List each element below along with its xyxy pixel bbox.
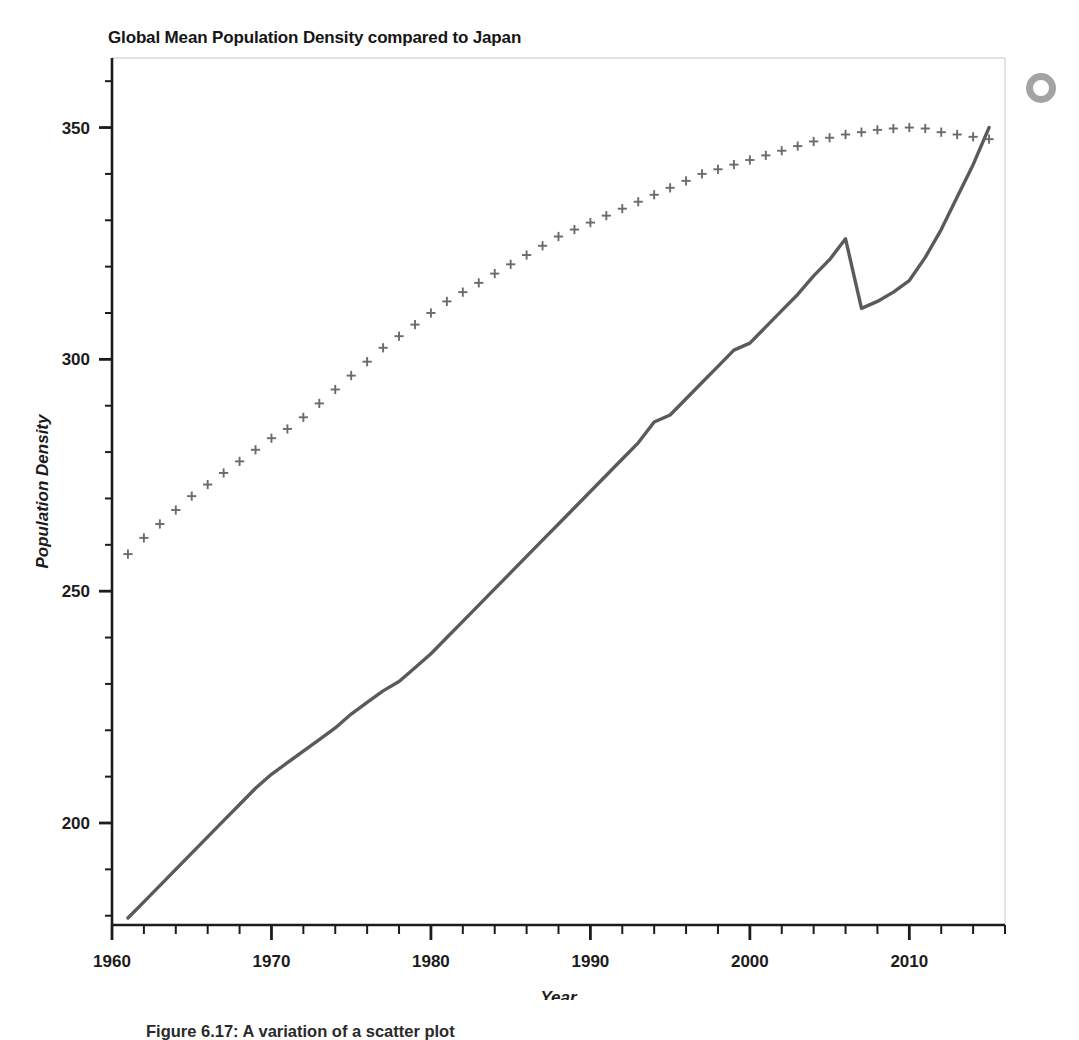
plus-marker — [825, 133, 834, 142]
plus-marker — [905, 123, 914, 132]
plus-marker — [426, 308, 435, 317]
plus-marker — [969, 132, 978, 141]
data-series-layer — [123, 123, 993, 918]
plus-marker — [618, 204, 627, 213]
plus-marker — [171, 505, 180, 514]
plus-marker — [857, 128, 866, 137]
plus-marker — [650, 190, 659, 199]
x-tick-label: 1970 — [253, 952, 291, 971]
plus-marker — [251, 445, 260, 454]
figure-container: Global Mean Population Density compared … — [0, 0, 1079, 1040]
x-tick-label: 1980 — [412, 952, 450, 971]
plot-frame — [112, 58, 1005, 925]
plus-marker — [267, 434, 276, 443]
y-tick-label: 300 — [62, 350, 90, 369]
plus-marker — [538, 241, 547, 250]
plus-marker — [490, 269, 499, 278]
plus-marker — [761, 151, 770, 160]
plus-marker — [793, 141, 802, 150]
plus-marker — [123, 549, 132, 558]
series-line-japan — [128, 128, 989, 919]
axis-labels: 200250300350196019701980199020002010Popu… — [33, 119, 928, 1000]
plus-marker — [331, 385, 340, 394]
x-tick-label: 1990 — [571, 952, 609, 971]
plus-marker — [522, 250, 531, 259]
plus-marker — [634, 197, 643, 206]
plus-marker — [666, 183, 675, 192]
plus-marker — [394, 332, 403, 341]
plus-marker — [713, 165, 722, 174]
plus-marker — [474, 278, 483, 287]
y-axis-title: Population Density — [33, 413, 52, 569]
plus-marker — [299, 413, 308, 422]
y-tick-label: 200 — [62, 814, 90, 833]
plus-marker — [921, 124, 930, 133]
plus-marker — [410, 320, 419, 329]
chart-plot: 200250300350196019701980199020002010Popu… — [0, 0, 1079, 1000]
plus-marker — [681, 176, 690, 185]
x-axis-title: Year — [540, 988, 578, 1000]
plus-marker — [139, 533, 148, 542]
series-markers-global-mean — [123, 123, 993, 559]
y-tick-label: 350 — [62, 119, 90, 138]
plus-marker — [729, 160, 738, 169]
figure-caption: Figure 6.17: A variation of a scatter pl… — [146, 1022, 966, 1040]
plus-marker — [873, 125, 882, 134]
plus-marker — [219, 468, 228, 477]
plus-marker — [841, 130, 850, 139]
x-tick-label: 2000 — [731, 952, 769, 971]
plus-marker — [235, 457, 244, 466]
plus-marker — [937, 128, 946, 137]
x-tick-label: 1960 — [93, 952, 131, 971]
plus-marker — [745, 155, 754, 164]
plus-marker — [187, 492, 196, 501]
plus-marker — [809, 137, 818, 146]
plus-marker — [602, 211, 611, 220]
x-tick-label: 2010 — [890, 952, 928, 971]
plus-marker — [777, 146, 786, 155]
plus-marker — [283, 424, 292, 433]
plus-marker — [442, 297, 451, 306]
plus-marker — [315, 399, 324, 408]
plus-marker — [570, 225, 579, 234]
plus-marker — [586, 218, 595, 227]
plus-marker — [347, 371, 356, 380]
plus-marker — [363, 357, 372, 366]
y-tick-label: 250 — [62, 582, 90, 601]
plus-marker — [889, 124, 898, 133]
plus-marker — [203, 480, 212, 489]
ring-scan-artifact — [1026, 73, 1056, 103]
plus-marker — [953, 130, 962, 139]
plus-marker — [458, 288, 467, 297]
plus-marker — [378, 343, 387, 352]
plus-marker — [155, 519, 164, 528]
plus-marker — [697, 169, 706, 178]
plus-marker — [506, 260, 515, 269]
plus-marker — [554, 232, 563, 241]
